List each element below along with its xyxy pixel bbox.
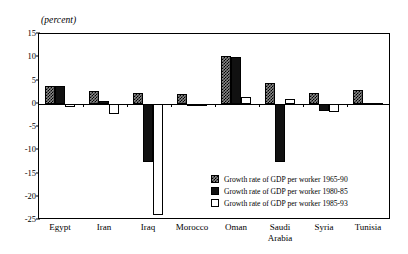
bar-oman-series-1 [231,57,241,104]
x-axis-tick-mark [259,104,260,107]
bar-oman-series-0 [221,56,231,103]
x-axis-label-morocco: Morocco [176,222,209,233]
bar-morocco-series-1 [187,104,197,106]
x-axis-tick-mark [347,104,348,107]
bar-egypt-series-0 [45,86,55,104]
bar-tunisia-series-1 [363,103,373,105]
x-axis-tick-mark [127,104,128,107]
bar-syria-series-2 [329,104,339,112]
bar-saudi-arabia-series-2 [285,99,295,104]
bar-morocco-series-0 [177,94,187,103]
x-axis-category-labels: EgyptIranIraqMoroccoOmanSaudi ArabiaSyri… [38,222,390,252]
legend-item: Growth rate of GDP per worker 1965-90 [211,174,348,184]
x-axis-tick-mark [215,104,216,107]
legend-swatch-icon [211,199,219,207]
x-axis-label-iraq: Iraq [141,222,156,233]
chart-legend: Growth rate of GDP per worker 1965-90Gro… [211,174,348,210]
bar-iraq-series-0 [133,93,143,104]
bar-oman-series-2 [241,97,251,104]
x-axis-label-saudi-arabia: Saudi Arabia [268,222,293,243]
x-axis-tick-mark [303,104,304,107]
bar-syria-series-1 [319,104,329,111]
bar-egypt-series-1 [55,86,65,104]
y-axis-units-label: (percent) [41,15,76,25]
bar-iraq-series-1 [143,104,153,162]
x-axis-label-egypt: Egypt [49,222,71,233]
bar-tunisia-series-0 [353,90,363,104]
legend-swatch-icon [211,175,219,183]
bar-saudi-arabia-series-0 [265,83,275,103]
bar-saudi-arabia-series-1 [275,104,285,162]
bar-iraq-series-2 [153,104,163,216]
bar-tunisia-series-2 [373,103,383,105]
x-axis-tick-mark [171,104,172,107]
chart-root: (percent) 151050-5-10-15-20-25 EgyptIran… [0,0,408,254]
legend-item: Growth rate of GDP per worker 1980-85 [211,186,348,196]
x-axis-label-syria: Syria [315,222,334,233]
legend-label: Growth rate of GDP per worker 1965-90 [224,175,348,184]
x-axis-label-iran: Iran [97,222,112,233]
x-axis-label-tunisia: Tunisia [355,222,382,233]
bar-egypt-series-2 [65,104,75,107]
bar-syria-series-0 [309,93,319,104]
legend-label: Growth rate of GDP per worker 1985-93 [224,199,348,208]
legend-swatch-icon [211,187,219,195]
x-axis-tick-mark [83,104,84,107]
bar-morocco-series-2 [197,104,207,106]
legend-label: Growth rate of GDP per worker 1980-85 [224,187,348,196]
bar-iran-series-0 [89,91,99,104]
legend-item: Growth rate of GDP per worker 1985-93 [211,198,348,208]
x-axis-label-oman: Oman [225,222,247,233]
bar-iran-series-2 [109,104,119,115]
bar-iran-series-1 [99,101,109,103]
